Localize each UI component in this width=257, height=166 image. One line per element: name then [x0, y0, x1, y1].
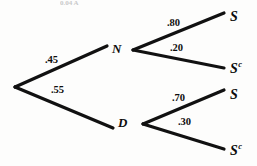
leaf-label-n-s: S	[230, 10, 238, 24]
probability-label-root-to-n: .45	[45, 55, 58, 66]
leaf-label-d-sc: Sc	[230, 144, 242, 158]
branch-line-d-to-sc	[143, 124, 224, 149]
leaf-label-n-sc: Sc	[230, 62, 242, 76]
probability-label-d-to-s: .70	[172, 93, 185, 104]
leaf-superscript-n-sc: c	[238, 59, 242, 69]
leaf-label-d-s: S	[230, 88, 238, 102]
branch-line-root-to-n	[15, 46, 107, 87]
leaf-superscript-d-sc: c	[238, 141, 242, 151]
probability-tree-diagram: 0.04 A N D S Sc S Sc .45 .55 .80 .20 .70…	[0, 0, 257, 166]
branch-line-root-to-d	[15, 87, 113, 128]
probability-label-n-to-sc: .20	[170, 43, 183, 54]
node-label-n: N	[112, 42, 122, 55]
probability-label-root-to-d: .55	[51, 85, 64, 96]
leaf-letter-n-s: S	[230, 9, 238, 24]
leaf-letter-n-sc: S	[230, 61, 238, 76]
node-label-d: D	[118, 116, 128, 129]
probability-label-d-to-sc: .30	[178, 117, 191, 128]
leaf-letter-d-sc: S	[230, 143, 238, 158]
probability-label-n-to-s: .80	[167, 18, 180, 29]
leaf-letter-d-s: S	[230, 87, 238, 102]
tree-branch-lines	[0, 0, 257, 166]
